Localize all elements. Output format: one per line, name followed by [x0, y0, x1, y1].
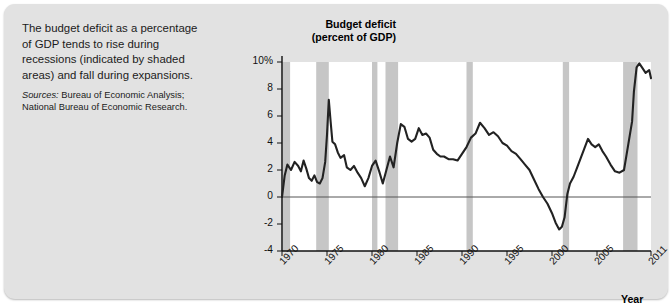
figure-panel: The budget deficit as a percentage of GD… [4, 4, 668, 299]
recession-band-3 [372, 62, 377, 251]
y-tick-label: 8 [233, 82, 273, 93]
x-axis-title: Year [621, 293, 643, 303]
y-tick-label: 6 [233, 109, 273, 120]
caption-block: The budget deficit as a percentage of GD… [22, 21, 202, 114]
recession-band-2 [316, 62, 329, 251]
sources-label: Sources: [22, 90, 59, 100]
y-tick-label: 10% [233, 55, 273, 66]
y-tick-label: -2 [233, 217, 273, 228]
y-tick-label: -4 [233, 244, 273, 255]
caption-lead: The budget deficit as a percentage of GD… [22, 21, 202, 83]
y-tick-label: 4 [233, 136, 273, 147]
chart-container: Budget deficit (percent of GDP) 10%86420… [200, 12, 662, 299]
y-tick-label: 2 [233, 163, 273, 174]
recession-band-5 [467, 62, 473, 251]
caption-sources: Sources: Bureau of Economic Analysis; Na… [22, 90, 202, 113]
y-tick-label: 0 [233, 190, 273, 201]
